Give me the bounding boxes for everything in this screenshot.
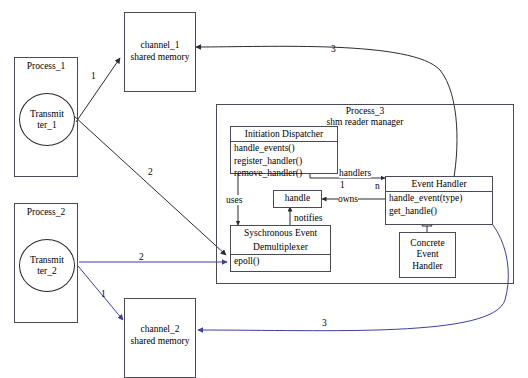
transmitter-2-label-line2: ter_2 — [37, 266, 57, 277]
channel-2-label: channel_2 shared memory — [124, 324, 196, 347]
channel-1-label: channel_1 shared memory — [124, 40, 196, 63]
initiation-dispatcher-class: Initiation Dispatcher handle_events() re… — [230, 126, 338, 174]
demultiplexer-class: Syschronous Event Demultiplexer epoll() — [230, 225, 331, 272]
concrete-event-handler-line3: Handler — [412, 261, 443, 273]
label-flow-handler-channel1: 3 — [331, 44, 336, 54]
label-notifies: notifies — [294, 213, 323, 223]
process-3-title-line1: Process_3 — [216, 106, 514, 117]
label-multiplicity-n: n — [375, 181, 380, 191]
transmitter-1-actor: Transmit ter_1 — [19, 93, 75, 146]
label-multiplicity-one: 1 — [340, 180, 345, 190]
transmitter-1-label-line2: ter_1 — [37, 120, 57, 131]
demultiplexer-name-line1: Syschronous Event — [231, 226, 330, 240]
process-1-title: Process_1 — [14, 61, 78, 72]
label-uses: uses — [226, 195, 242, 205]
initiation-dispatcher-name: Initiation Dispatcher — [231, 127, 337, 142]
channel-2-name: channel_2 — [124, 324, 196, 336]
edge-p1-to-channel1 — [76, 58, 120, 122]
channel-2-subtitle: shared memory — [124, 336, 196, 348]
process-2-title: Process_2 — [14, 207, 78, 218]
label-flow-p2-epoll: 2 — [139, 252, 144, 262]
concrete-event-handler-line1: Concrete — [410, 238, 444, 250]
process-3-title: Process_3 shm reader manager — [216, 106, 514, 128]
operation-register-handler: register_handler() — [234, 155, 337, 168]
demultiplexer-name-line2: Demultiplexer — [231, 240, 330, 255]
transmitter-2-actor: Transmit ter_2 — [19, 239, 75, 292]
transmitter-2-label-line1: Transmit — [30, 255, 64, 266]
label-flow-p1-channel1: 1 — [91, 71, 96, 81]
event-handler-operations: handle_event(type) get_handle() — [386, 192, 492, 217]
label-flow-p2-channel2: 1 — [101, 289, 106, 299]
transmitter-1-label-line1: Transmit — [30, 109, 64, 120]
handle-name: handle — [285, 193, 310, 205]
concrete-event-handler-line2: Event — [416, 249, 438, 261]
label-owns: owns — [338, 194, 358, 204]
channel-1-subtitle: shared memory — [124, 52, 196, 64]
operation-handle-event: handle_event(type) — [389, 192, 492, 205]
initiation-dispatcher-operations: handle_events() register_handler() remov… — [231, 142, 337, 180]
event-handler-class: Event Handler handle_event(type) get_han… — [385, 176, 493, 225]
label-handlers: handlers — [339, 168, 371, 178]
label-flow-p1-epoll: 2 — [148, 167, 153, 177]
event-handler-name: Event Handler — [386, 177, 492, 192]
demultiplexer-operations: epoll() — [231, 255, 330, 268]
operation-get-handle: get_handle() — [389, 205, 492, 218]
operation-remove-handler: remove_handler() — [234, 167, 337, 180]
diagram-canvas: Process_1 Transmit ter_1 Process_2 Trans… — [0, 0, 528, 378]
channel-1-name: channel_1 — [124, 40, 196, 52]
operation-epoll: epoll() — [234, 255, 330, 268]
operation-handle-events: handle_events() — [234, 142, 337, 155]
handle-class: handle — [273, 190, 322, 208]
edge-p1-to-epoll — [74, 116, 226, 255]
label-flow-handler-channel2: 3 — [322, 318, 327, 328]
concrete-event-handler-class: Concrete Event Handler — [399, 232, 456, 278]
